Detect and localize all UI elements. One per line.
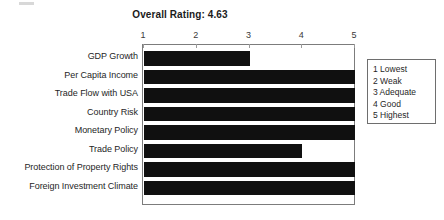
category-label: Trade Policy — [0, 144, 138, 154]
category-label: Country Risk — [0, 107, 138, 117]
x-tick-label-1: 1 — [140, 30, 145, 40]
bars-layer — [143, 45, 354, 204]
bar — [144, 162, 355, 177]
category-axis-labels: GDP GrowthPer Capita IncomeTrade Flow wi… — [0, 44, 138, 205]
category-label: GDP Growth — [0, 51, 138, 61]
plot-area — [142, 44, 355, 205]
x-tick-mark-1 — [143, 44, 144, 48]
legend-item: 1 Lowest — [373, 64, 435, 76]
x-axis-tick-labels: 12345 — [142, 30, 355, 42]
bar — [144, 107, 355, 122]
x-tick-label-4: 4 — [299, 30, 304, 40]
legend-item: 3 Adequate — [373, 87, 435, 99]
legend-item: 4 Good — [373, 99, 435, 111]
category-label: Monetary Policy — [0, 125, 138, 135]
chart-page: Overall Rating: 4.63 12345 GDP GrowthPer… — [0, 0, 444, 220]
legend: 1 Lowest2 Weak3 Adequate4 Good5 Highest — [367, 59, 436, 124]
chart-title: Overall Rating: 4.63 — [0, 9, 360, 20]
legend-item: 5 Highest — [373, 110, 435, 122]
scan-artifact — [19, 2, 34, 5]
bar — [144, 144, 302, 159]
category-label: Foreign Investment Climate — [0, 181, 138, 191]
x-tick-label-3: 3 — [246, 30, 251, 40]
bar — [144, 51, 250, 66]
category-label: Protection of Property Rights — [0, 162, 138, 172]
legend-item: 2 Weak — [373, 76, 435, 88]
x-tick-mark-4 — [301, 44, 302, 48]
category-label: Per Capita Income — [0, 70, 138, 80]
x-tick-label-2: 2 — [193, 30, 198, 40]
x-tick-label-5: 5 — [351, 30, 356, 40]
x-tick-mark-2 — [196, 44, 197, 48]
bar — [144, 70, 355, 85]
x-tick-mark-3 — [249, 44, 250, 48]
bar — [144, 88, 355, 103]
x-tick-mark-5 — [354, 44, 355, 48]
category-label: Trade Flow with USA — [0, 88, 138, 98]
bar — [144, 125, 355, 140]
bar — [144, 181, 355, 196]
